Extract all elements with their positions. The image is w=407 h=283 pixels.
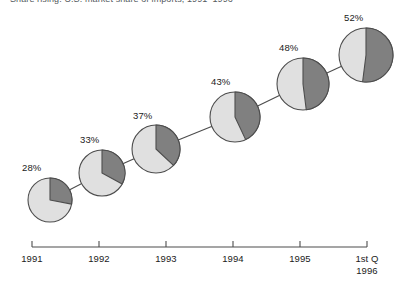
pie-value-label: 43% (211, 76, 230, 87)
x-axis-tick-label: 1992 (69, 253, 129, 265)
x-axis-tick-label: 1993 (136, 253, 196, 265)
pie-highlight-slice (50, 178, 72, 204)
pie-chart-1995 (277, 58, 329, 110)
x-axis-tick-label-line: 1992 (69, 253, 129, 265)
x-axis-tick-label-line: 1996 (337, 265, 397, 277)
pie-highlight-slice (363, 28, 393, 82)
chart-plot-area (0, 0, 407, 283)
pie-series (28, 28, 393, 222)
x-axis-tick-label: 1994 (203, 253, 263, 265)
x-axis-tick-label: 1st Q1996 (337, 253, 397, 277)
pie-value-label: 52% (344, 12, 363, 23)
x-axis-tick-label-line: 1993 (136, 253, 196, 265)
pie-value-label: 33% (80, 134, 99, 145)
pie-value-label: 28% (22, 162, 41, 173)
pie-chart-1992 (79, 150, 125, 196)
pie-value-label: 48% (279, 42, 298, 53)
pie-highlight-slice (303, 58, 329, 110)
x-axis-tick-label: 1995 (270, 253, 330, 265)
pie-chart-1st Q (339, 28, 393, 82)
x-axis-tick-label: 1991 (2, 253, 62, 265)
pie-progression-chart: Share rising: U.S. market share of impor… (0, 0, 407, 283)
x-axis (32, 241, 367, 247)
x-axis-tick-label-line: 1st Q (337, 253, 397, 265)
pie-chart-1993 (132, 125, 180, 173)
pie-chart-1994 (210, 92, 260, 142)
x-axis-tick-label-line: 1991 (2, 253, 62, 265)
x-axis-tick-label-line: 1995 (270, 253, 330, 265)
x-axis-tick-label-line: 1994 (203, 253, 263, 265)
pie-chart-1991 (28, 178, 72, 222)
pie-value-label: 37% (133, 110, 152, 121)
